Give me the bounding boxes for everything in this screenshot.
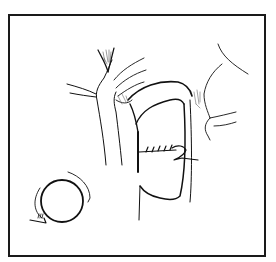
rotation-inset: [30, 172, 90, 223]
left-vessel: [67, 48, 122, 165]
suture-line: [139, 145, 198, 160]
surgical-illustration: [0, 0, 276, 262]
right-structure: [204, 44, 248, 140]
retracted-tissue: [114, 58, 146, 103]
arrow-head-icon: [30, 218, 46, 223]
